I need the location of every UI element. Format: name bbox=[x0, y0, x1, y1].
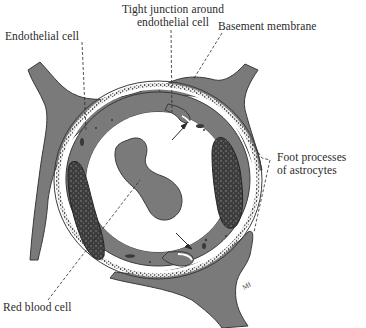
label-foot-processes-line2: of astrocytes bbox=[277, 164, 346, 177]
leader-basement-membrane bbox=[193, 33, 222, 80]
label-red-blood-cell: Red blood cell bbox=[3, 301, 71, 314]
capillary-diagram: Mf Tight junction around endothelial cel… bbox=[0, 0, 366, 328]
label-foot-processes-line1: Foot processes bbox=[277, 151, 346, 164]
label-tight-junction-line2: endothelial cell bbox=[118, 16, 228, 29]
artist-signature: Mf bbox=[241, 280, 253, 292]
label-basement-membrane: Basement membrane bbox=[218, 20, 316, 33]
label-foot-processes: Foot processes of astrocytes bbox=[277, 151, 346, 177]
label-tight-junction-line1: Tight junction around bbox=[118, 3, 228, 16]
label-tight-junction: Tight junction around endothelial cell bbox=[118, 3, 228, 29]
label-endothelial-cell: Endothelial cell bbox=[5, 30, 79, 43]
